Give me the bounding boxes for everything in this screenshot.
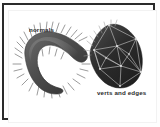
figure-root: normals verts and edges [0,0,160,127]
blob-body [25,32,88,94]
scene-illustration [5,6,152,117]
polyhedral-mesh [84,20,142,88]
figure-canvas: normals verts and edges [5,6,152,117]
label-normals: normals [29,27,54,33]
label-verts-and-edges: verts and edges [97,90,146,96]
